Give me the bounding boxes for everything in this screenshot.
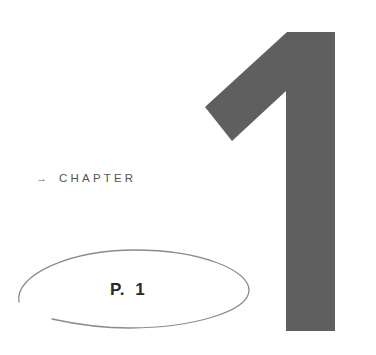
chapter-label-text: CHAPTER [59, 172, 136, 184]
chapter-heading: → CHAPTER [36, 170, 136, 186]
page-number-label: P. 1 [110, 279, 145, 301]
arrow-right-icon: → [36, 172, 47, 184]
chapter-number-one-shape [205, 32, 335, 331]
